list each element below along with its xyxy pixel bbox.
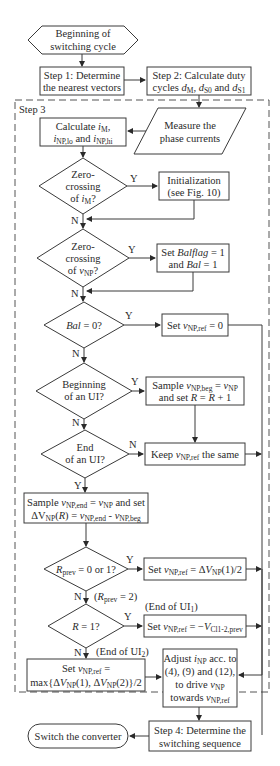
svg-text:crossing: crossing [66, 253, 102, 264]
svg-text:N: N [71, 215, 79, 226]
svg-text:Initialization: Initialization [167, 175, 221, 186]
svg-text:(see Fig. 10): (see Fig. 10) [168, 187, 221, 199]
svg-text:N: N [74, 647, 82, 658]
zero-crossing-im-decision: Zero- crossing of iM? [39, 158, 127, 214]
step4-box: Step 4: Determine the switching sequence [149, 721, 251, 751]
step2-box: Step 2: Calculate duty cycles dM, dS0 an… [147, 67, 251, 95]
adjust-inp-box: Adjust iNP acc. to (4), (9) and (12), to… [163, 649, 237, 707]
svg-text:Zero-: Zero- [71, 241, 95, 252]
svg-text:Set Balflag = 1: Set Balflag = 1 [161, 247, 224, 258]
svg-text:the nearest vectors: the nearest vectors [43, 82, 121, 93]
svg-text:phase currents: phase currents [160, 133, 220, 144]
flowchart-diagram: Step 3 Beginning of switching cycle Step… [0, 0, 280, 766]
svg-text:Bal = 0?: Bal = 0? [66, 320, 102, 331]
svg-text:(End of UI1): (End of UI1) [145, 601, 198, 614]
initialization-box: Initialization (see Fig. 10) [159, 172, 229, 200]
svg-text:switching sequence: switching sequence [159, 738, 241, 749]
svg-text:Switch the converter: Switch the converter [35, 731, 122, 742]
svg-text:and set R = R + 1: and set R = R + 1 [159, 392, 232, 403]
svg-text:Zero-: Zero- [71, 169, 95, 180]
r-equals-1-decision: R = 1? [48, 604, 124, 648]
svg-text:N: N [129, 439, 137, 450]
svg-text:Step 2: Calculate duty: Step 2: Calculate duty [152, 70, 246, 81]
set-balflag-box: Set Balflag = 1 and Bal = 1 [157, 244, 229, 272]
svg-text:Y: Y [130, 173, 138, 184]
svg-text:Y: Y [74, 480, 82, 491]
svg-text:(End of UI2): (End of UI2) [96, 646, 149, 659]
svg-text:End: End [77, 442, 95, 453]
svg-text:N: N [72, 348, 80, 359]
zero-crossing-vnp-decision: Zero- crossing of vNP? [37, 229, 129, 287]
switch-converter-terminal: Switch the converter [28, 724, 128, 748]
svg-text:Measure the: Measure the [164, 120, 216, 131]
svg-text:(Rprev = 2): (Rprev = 2) [94, 591, 138, 604]
calculate-currents-box: Calculate iM, iNP,lo and iNP,hi [40, 118, 126, 146]
step1-box: Step 1: Determine the nearest vectors [40, 67, 124, 95]
svg-text:and Bal = 1: and Bal = 1 [169, 259, 218, 270]
keep-vnpref-box: Keep vNP,ref the same [145, 443, 245, 465]
svg-text:of an UI?: of an UI? [65, 454, 105, 465]
svg-text:Step 1: Determine: Step 1: Determine [44, 70, 121, 81]
svg-text:N: N [71, 288, 79, 299]
bal-zero-decision: Bal = 0? [44, 302, 124, 348]
sample-vnp-beg-box: Sample vNP,beg = vNP and set R = R + 1 [146, 377, 244, 405]
measure-currents-node: Measure the phase currents [134, 108, 246, 154]
svg-text:Y: Y [131, 376, 139, 387]
end-ui-decision: End of an UI? [41, 430, 129, 478]
svg-text:switching cycle: switching cycle [50, 41, 116, 52]
svg-text:N: N [72, 417, 80, 428]
set-vnpref-zero-box: Set vNP,ref = 0 [162, 314, 228, 336]
set-vnpref-max-box: Set vNP,ref = max{ΔVNP(1), ΔVNP(2)}/2 [27, 659, 145, 691]
step3-label: Step 3 [19, 104, 46, 115]
svg-text:Y: Y [126, 554, 134, 565]
svg-text:N: N [74, 591, 82, 602]
svg-text:R = 1?: R = 1? [71, 621, 100, 632]
svg-text:(4), (9) and (12),: (4), (9) and (12), [165, 666, 235, 678]
svg-text:crossing: crossing [66, 181, 102, 192]
svg-text:of an UI?: of an UI? [64, 391, 104, 402]
start-node: Beginning of switching cycle [28, 26, 138, 54]
svg-text:Y: Y [125, 310, 133, 321]
svg-text:Y: Y [128, 244, 136, 255]
set-vnpref-vcl-box: Set vNP,ref = −VCl1-2,prev [144, 615, 246, 637]
svg-text:Beginning of: Beginning of [55, 28, 111, 39]
rprev-decision: Rprev = 0 or 1? [44, 547, 128, 591]
svg-text:Step 4: Determine the: Step 4: Determine the [154, 725, 246, 736]
svg-text:Y: Y [124, 611, 132, 622]
beginning-ui-decision: Beginning of an UI? [36, 363, 132, 419]
set-vnpref-dv1-box: Set vNP,ref = ΔVNP(1)/2 [144, 558, 246, 580]
svg-text:Beginning: Beginning [62, 379, 106, 390]
sample-vnp-end-box: Sample vNP,end = vNP and set ΔVNP(R) = v… [24, 493, 148, 523]
